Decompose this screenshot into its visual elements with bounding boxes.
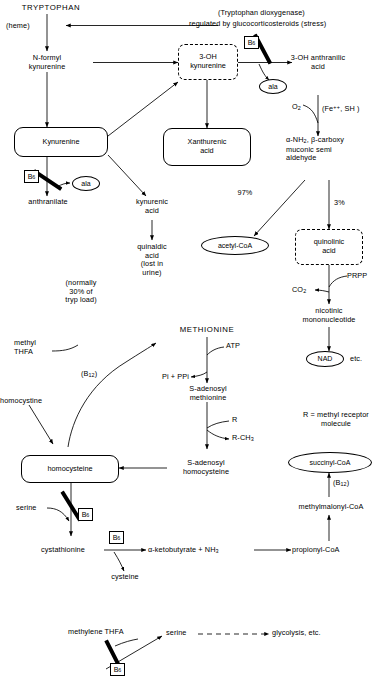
b6-box-4: B6 [109,531,124,544]
label-methylene-thfa: methylene THFA [68,628,144,637]
label-ala-1: ala [268,83,277,91]
box-homocysteine: homocysteine [21,455,119,483]
label-homocystine: homocystine [0,397,62,406]
label-cysteine: cysteine [100,573,150,582]
label-succinyl-coa: succinyl-CoA [310,459,351,467]
label-kynurenine: Kynurenine [43,138,80,147]
label-acetyl-coa: acetyl-CoA [218,242,252,250]
box-3-oh-kynurenine: 3-OH kynurenine [178,44,238,80]
label-kynurenic-acid: kynurenic acid [122,198,182,215]
box-xanthurenic-acid: Xanthurenic acid [163,128,251,166]
label-dioxygenase-note-line2: regulated by glucocorticosteroids (stres… [189,20,387,29]
label-3-oh-anthranilic-acid: 3-OH anthranilic acid [284,54,352,71]
label-serine-bottom: serine [166,629,198,638]
label-alpha-ketobutyrate: α-ketobutyrate + NH3 [148,546,256,556]
b6-box-4-sub: 6 [117,534,120,542]
label-propionyl-coa: propionyl-CoA [292,546,366,555]
label-nicotinic-mononucleotide: nicotinic mononucleotide [281,307,377,324]
oval-ala-2: ala [72,176,100,191]
label-normally-note: (normally 30% of tryp load) [50,279,112,305]
label-pi-ppi: Pi + PPi [145,373,189,382]
b6-box-5-sub: 6 [118,666,121,674]
b6-box-2: B6 [24,170,39,183]
label-co2: CO2 [292,286,314,296]
label-xanthurenic-acid: Xanthurenic acid [188,138,227,155]
label-heme: (heme) [6,22,44,31]
label-atp: ATP [226,342,250,351]
label-b12-1: (B12) [81,370,111,380]
label-quinolinic-acid: quinolinic acid [314,238,344,255]
label-s-adenosyl-homocysteine: S-adenosyl homocysteine [167,459,245,476]
label-ala-2: ala [81,180,90,188]
label-b12-2: (B12) [333,479,363,489]
b6-box-1-sub: 6 [252,39,255,47]
label-etc: etc. [350,355,374,364]
arrow-layer: glycolysis --> [0,0,387,678]
label-homocysteine: homocysteine [47,465,92,474]
label-r-legend: R = methyl receptor molecule [286,411,386,428]
label-dioxygenase-note-line1: (Tryptophan dioxygenase) [218,9,378,18]
label-pct-3: 3% [334,199,352,208]
label-pct-97: 97% [233,189,257,198]
label-glycolysis: glycolysis, etc. [272,629,354,638]
label-nad: NAD [318,355,333,363]
label-anthranilate: anthranilate [12,198,84,207]
label-s-adenosyl-methionine: S-adenosyl methionine [172,385,244,402]
label-o2: O2 [292,103,308,113]
box-kynurenine: Kynurenine [14,127,108,157]
label-methionine: METHIONINE [156,326,258,335]
label-tryptophan: TRYPTOPHAN [6,4,96,13]
label-methylmalonyl-coa: methylmalonyl-CoA [283,503,379,512]
label-3-oh-kynurenine: 3-OH kynurenine [190,53,226,70]
label-n-formyl-kynurenine: N-formyl kynurenine [10,54,84,71]
oval-succinyl-coa: succinyl-CoA [288,452,372,473]
label-serine-upper: serine [16,504,48,513]
oval-ala-1: ala [259,79,287,94]
oval-acetyl-coa: acetyl-CoA [201,236,269,255]
label-methyl-thfa: methyl THFA [14,339,54,356]
label-cystathionine: cystathionine [24,546,102,555]
label-fe-sh: (Fe++, SH ) [322,103,384,114]
label-r: R [232,416,246,425]
b6-box-2-sub: 6 [32,173,35,181]
oval-nad: NAD [306,351,344,367]
label-quinaldic-acid: quinaldic acid (lost in urine) [122,243,182,277]
b6-box-5: B6 [110,663,125,676]
label-prpp: PRPP [347,272,381,281]
box-quinolinic-acid: quinolinic acid [295,229,363,265]
b6-box-3: B6 [78,508,93,521]
b6-box-1: B6 [244,36,259,49]
label-acms: α-NH2, β-carboxy muconic semi aldehyde [286,136,387,163]
pathway-diagram: glycolysis --> TRYPTOPHAN (heme) (Trypto… [0,0,387,678]
b6-box-3-sub: 6 [86,511,89,519]
label-r-ch3: R-CH3 [232,434,272,444]
